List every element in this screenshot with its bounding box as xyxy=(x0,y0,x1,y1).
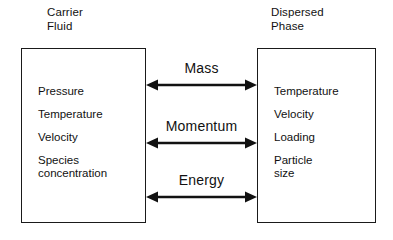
carrier-fluid-property-list: Pressure Temperature Velocity Species co… xyxy=(38,85,141,180)
property-item: Pressure xyxy=(38,85,141,98)
property-item: Temperature xyxy=(274,85,371,98)
property-item: Velocity xyxy=(38,131,141,144)
energy-transfer-label: Energy xyxy=(146,172,257,188)
carrier-fluid-box: Pressure Temperature Velocity Species co… xyxy=(21,48,146,223)
mass-double-arrow-icon xyxy=(146,78,257,92)
property-item: Particle size xyxy=(274,154,371,180)
dispersed-phase-box: Temperature Velocity Loading Particle si… xyxy=(257,48,376,223)
energy-double-arrow-icon xyxy=(146,190,257,204)
mass-transfer-label: Mass xyxy=(146,60,257,76)
dispersed-phase-property-list: Temperature Velocity Loading Particle si… xyxy=(274,85,371,180)
diagram-canvas: Carrier Fluid Dispersed Phase Pressure T… xyxy=(0,0,393,240)
property-item: Temperature xyxy=(38,108,141,121)
momentum-double-arrow-icon xyxy=(146,136,257,150)
property-item: Velocity xyxy=(274,108,371,121)
energy-transfer-group: Energy xyxy=(146,172,257,204)
momentum-transfer-group: Momentum xyxy=(146,118,257,150)
dispersed-phase-title: Dispersed Phase xyxy=(271,6,324,33)
carrier-fluid-title: Carrier Fluid xyxy=(47,6,83,33)
property-item: Species concentration xyxy=(38,154,141,180)
momentum-transfer-label: Momentum xyxy=(146,118,257,134)
mass-transfer-group: Mass xyxy=(146,60,257,92)
property-item: Loading xyxy=(274,131,371,144)
